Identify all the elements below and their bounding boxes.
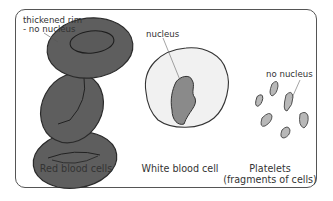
platelets-illustration	[254, 80, 308, 138]
platelet-no-nucleus-annotation: no nucleus	[266, 70, 313, 79]
rbc-rim-annotation-line2: - no nucleus	[23, 25, 76, 34]
wbc-nucleus-annotation: nucleus	[146, 30, 179, 39]
caption-platelets-line2: (fragments of cells)	[222, 174, 318, 185]
caption-platelets: Platelets (fragments of cells)	[222, 163, 318, 185]
caption-red-blood-cells: Red blood cells	[36, 163, 116, 174]
white-blood-cell-illustration	[145, 38, 228, 127]
caption-white-blood-cell: White blood cell	[140, 163, 220, 174]
caption-platelets-line1: Platelets	[222, 163, 318, 174]
